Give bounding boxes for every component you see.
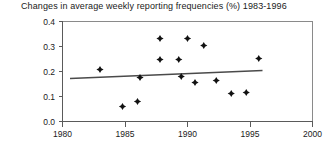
x-axis-labels: 1980 1985 1990 1995 2000: [53, 129, 322, 139]
data-point: [228, 90, 235, 97]
data-point: [184, 35, 191, 42]
y-axis-labels: 0.0 0.1 0.2 0.3 0.4: [43, 17, 55, 127]
y-tick-label-1: 0.1: [43, 92, 55, 102]
data-point: [134, 98, 141, 105]
data-point: [175, 56, 182, 63]
x-tick-label-0: 1980: [53, 129, 72, 139]
y-tick-label-4: 0.4: [43, 17, 55, 27]
y-tick-label-2: 0.2: [43, 67, 55, 77]
x-tick-label-1: 1985: [116, 129, 135, 139]
data-point: [200, 42, 207, 49]
data-point: [243, 89, 250, 96]
data-point: [96, 66, 103, 73]
y-tick-label-3: 0.3: [43, 42, 55, 52]
data-point: [156, 56, 163, 63]
data-point-group: [96, 35, 262, 110]
trend-line: [70, 71, 263, 79]
data-point: [119, 103, 126, 110]
chart-container: Changes in average weekly reporting freq…: [0, 0, 331, 152]
x-tick-label-2: 1990: [178, 129, 197, 139]
scatter-plot: 0.0 0.1 0.2 0.3 0.4 1980 1985 1990 1995 …: [0, 0, 331, 152]
data-point: [255, 55, 262, 62]
x-tick-label-4: 2000: [303, 129, 322, 139]
data-point: [213, 77, 220, 84]
y-axis-ticks: [59, 22, 63, 122]
x-axis-ticks: [63, 122, 313, 127]
x-tick-label-3: 1995: [241, 129, 260, 139]
y-tick-label-0: 0.0: [43, 117, 55, 127]
data-point: [156, 35, 163, 42]
data-point: [191, 79, 198, 86]
